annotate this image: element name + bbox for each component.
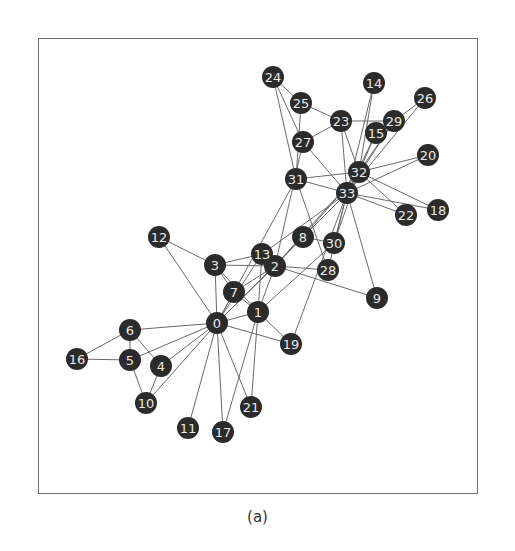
node-7: 7 (223, 281, 245, 303)
node-29: 29 (383, 110, 405, 132)
node-label: 0 (213, 316, 221, 331)
node-label: 2 (271, 259, 279, 274)
node-15: 15 (365, 122, 387, 144)
node-label: 1 (254, 305, 262, 320)
figure-caption: (a) (0, 508, 515, 526)
node-18: 18 (427, 199, 449, 221)
node-0: 0 (206, 312, 228, 334)
network-graph: 0123456789101112131415161718192021222324… (0, 0, 515, 551)
node-1: 1 (247, 301, 269, 323)
node-label: 22 (398, 208, 415, 223)
node-label: 24 (265, 70, 282, 85)
node-22: 22 (395, 204, 417, 226)
node-label: 4 (157, 359, 165, 374)
edge-0-17 (217, 323, 223, 432)
edge-18-33 (347, 193, 438, 210)
node-label: 6 (126, 323, 134, 338)
edge-28-31 (296, 179, 328, 270)
node-3: 3 (204, 254, 226, 276)
edge-1-21 (251, 312, 258, 407)
node-label: 27 (295, 135, 312, 150)
node-5: 5 (119, 349, 141, 371)
node-16: 16 (66, 348, 88, 370)
node-label: 18 (430, 203, 447, 218)
node-label: 30 (326, 236, 343, 251)
node-12: 12 (148, 226, 170, 248)
node-32: 32 (348, 161, 370, 183)
node-label: 23 (333, 114, 350, 129)
node-23: 23 (330, 110, 352, 132)
node-26: 26 (414, 87, 436, 109)
node-label: 28 (320, 263, 337, 278)
edge-0-12 (159, 237, 217, 323)
node-25: 25 (290, 92, 312, 114)
node-label: 19 (283, 337, 300, 352)
node-label: 5 (126, 353, 134, 368)
node-20: 20 (417, 144, 439, 166)
node-13: 13 (251, 243, 273, 265)
node-label: 20 (420, 148, 437, 163)
node-30: 30 (323, 232, 345, 254)
nodes-layer: 0123456789101112131415161718192021222324… (66, 66, 449, 443)
node-label: 26 (417, 91, 434, 106)
node-14: 14 (363, 72, 385, 94)
node-10: 10 (135, 392, 157, 414)
node-label: 9 (373, 291, 381, 306)
node-label: 29 (386, 114, 403, 129)
node-label: 21 (243, 400, 260, 415)
node-17: 17 (212, 421, 234, 443)
node-24: 24 (262, 66, 284, 88)
node-label: 33 (339, 186, 356, 201)
edge-2-27 (275, 142, 303, 266)
edge-18-32 (359, 172, 438, 210)
node-28: 28 (317, 259, 339, 281)
node-label: 15 (368, 126, 385, 141)
node-label: 16 (69, 352, 86, 367)
node-11: 11 (177, 417, 199, 439)
node-31: 31 (285, 168, 307, 190)
node-label: 13 (254, 247, 271, 262)
node-6: 6 (119, 319, 141, 341)
node-label: 10 (138, 396, 155, 411)
node-9: 9 (366, 287, 388, 309)
node-21: 21 (240, 396, 262, 418)
node-label: 7 (230, 285, 238, 300)
node-label: 17 (215, 425, 232, 440)
node-label: 31 (288, 172, 305, 187)
node-8: 8 (292, 226, 314, 248)
node-label: 8 (299, 230, 307, 245)
node-label: 14 (366, 76, 383, 91)
edge-9-33 (347, 193, 377, 298)
node-label: 25 (293, 96, 310, 111)
node-33: 33 (336, 182, 358, 204)
node-19: 19 (280, 333, 302, 355)
node-label: 32 (351, 165, 368, 180)
node-27: 27 (292, 131, 314, 153)
node-label: 12 (151, 230, 168, 245)
edge-24-31 (273, 77, 296, 179)
node-label: 3 (211, 258, 219, 273)
node-4: 4 (150, 355, 172, 377)
figure: 0123456789101112131415161718192021222324… (0, 0, 515, 551)
node-label: 11 (180, 421, 197, 436)
